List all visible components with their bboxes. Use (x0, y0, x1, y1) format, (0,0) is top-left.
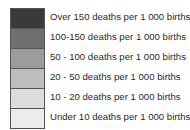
legend-swatch (10, 68, 45, 88)
legend-label: Over 150 deaths per 1 000 births (50, 11, 190, 22)
legend-label: 10 - 20 deaths per 1 000 births (50, 91, 181, 102)
legend-label: Under 10 deaths per 1 000 births (50, 111, 190, 122)
legend-label: 100-150 deaths per 1 000 births (50, 31, 186, 42)
legend-swatch (10, 28, 45, 48)
legend-label: 50 - 100 deaths per 1 000 births (50, 51, 186, 62)
legend-swatch (10, 48, 45, 68)
legend-label: 20 - 50 deaths per 1 000 births (50, 71, 181, 82)
legend-swatch (10, 88, 45, 108)
legend-swatch (10, 8, 45, 28)
legend-swatch (10, 108, 45, 129)
